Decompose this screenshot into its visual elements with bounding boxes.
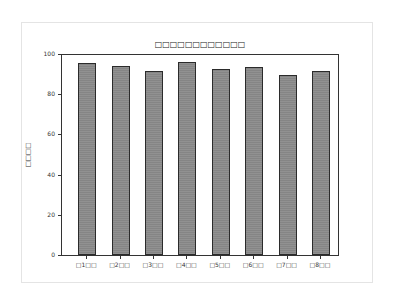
x-tick-label: □5□□: [203, 261, 237, 268]
x-tick: [220, 256, 221, 259]
x-tick-label: □4□□: [169, 261, 203, 268]
bar: [145, 71, 163, 255]
y-tick-label: 100: [31, 50, 55, 57]
y-tick: [58, 215, 61, 216]
bar: [279, 75, 297, 255]
x-tick: [287, 256, 288, 259]
bar: [312, 71, 330, 255]
x-tick-label: □3□□: [136, 261, 170, 268]
x-tick-label: □1□□: [69, 261, 103, 268]
x-tick: [320, 256, 321, 259]
x-tick: [153, 256, 154, 259]
y-tick-label: 40: [31, 171, 55, 178]
plot-area: [61, 54, 339, 256]
x-tick: [86, 256, 87, 259]
x-tick-label: □2□□: [103, 261, 137, 268]
y-tick: [58, 175, 61, 176]
y-tick-label: 80: [31, 90, 55, 97]
bar: [178, 62, 196, 255]
bar: [78, 63, 96, 255]
y-axis-label: □□□□: [24, 143, 32, 168]
bar: [245, 67, 263, 255]
bar: [212, 69, 230, 255]
x-tick: [253, 256, 254, 259]
bar: [112, 66, 130, 255]
y-tick-label: 20: [31, 211, 55, 218]
x-tick-label: □7□□: [270, 261, 304, 268]
x-tick: [186, 256, 187, 259]
y-tick: [58, 54, 61, 55]
y-tick: [58, 134, 61, 135]
x-tick: [120, 256, 121, 259]
x-tick-label: □6□□: [236, 261, 270, 268]
y-tick-label: 60: [31, 130, 55, 137]
y-tick: [58, 255, 61, 256]
chart-title: □□□□□□□□□□□□: [61, 40, 339, 49]
x-tick-label: □8□□: [303, 261, 337, 268]
y-tick: [58, 94, 61, 95]
y-tick-label: 0: [31, 251, 55, 258]
